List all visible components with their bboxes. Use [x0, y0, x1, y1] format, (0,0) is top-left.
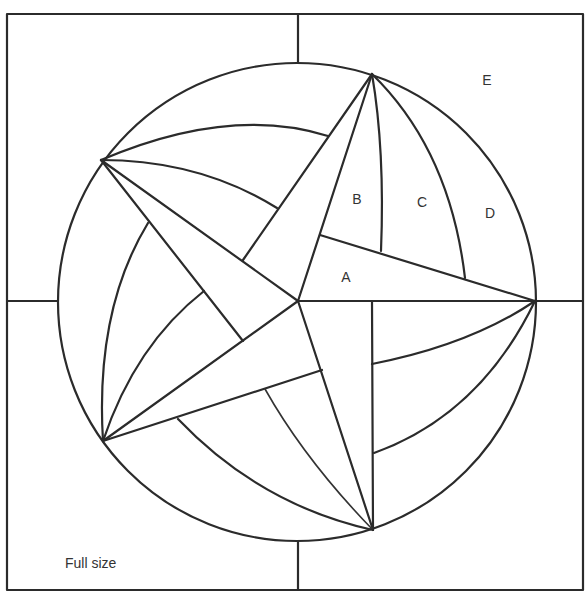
arc-upper-left-outer — [101, 125, 328, 160]
arc-right-inner — [372, 301, 535, 364]
caption-full-size: Full size — [65, 555, 117, 571]
star-rays — [101, 74, 535, 530]
arc-bottom-inner — [265, 389, 373, 530]
label-c: C — [417, 194, 427, 210]
label-e: E — [482, 72, 491, 88]
label-d: D — [485, 205, 495, 221]
star-pattern-diagram: A B C D E Full size — [0, 0, 587, 592]
ray-upper-left — [101, 160, 298, 301]
arc-right-outer — [374, 301, 535, 453]
wing-upper-left — [101, 160, 243, 341]
arc-top-outer — [372, 74, 465, 278]
arc-top-inner — [372, 74, 382, 251]
label-a: A — [341, 269, 351, 285]
arc-bottom-outer — [178, 419, 373, 530]
wing-bottom — [372, 301, 373, 530]
ray-lower-left — [103, 301, 298, 441]
arc-lower-left-outer — [102, 223, 148, 441]
arc-upper-left-inner — [101, 160, 277, 208]
ray-bottom — [298, 301, 373, 530]
ray-top — [298, 74, 372, 301]
wing-right — [320, 235, 535, 301]
arc-lower-left-inner — [103, 291, 204, 441]
wing-top — [243, 74, 372, 260]
wing-lower-left — [103, 370, 322, 441]
label-b: B — [352, 191, 361, 207]
